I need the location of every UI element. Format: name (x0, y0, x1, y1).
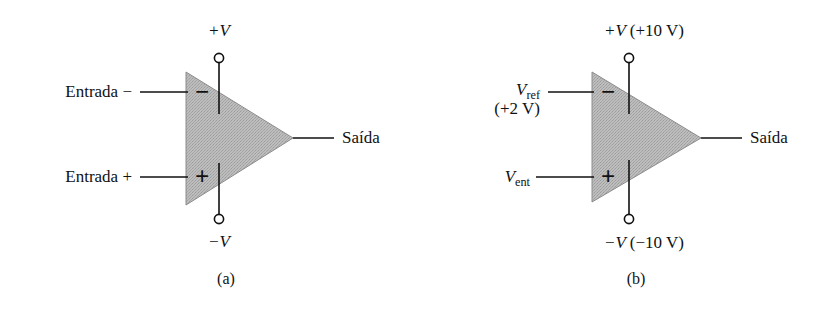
signal-input-var-b: V (505, 167, 515, 186)
positive-supply-terminal-a (214, 53, 223, 62)
reference-input-label-b: Vref (+2 V) (494, 81, 540, 119)
negative-supply-value-b: (−10 V) (630, 233, 684, 252)
output-label-b: Saída (750, 129, 788, 147)
panel-b-graphics (536, 53, 742, 223)
positive-supply-value-b: (+10 V) (630, 21, 684, 40)
output-label-a: Saída (342, 129, 380, 147)
positive-supply-label-b: +V(+10 V) (604, 22, 684, 40)
noninverting-symbol-a: + (195, 163, 209, 190)
figure-root: − + Entrada − Entrada + Saída +V −V (a) … (0, 0, 834, 311)
noninverting-symbol-b: + (601, 163, 615, 190)
positive-supply-label-a: +V (208, 22, 230, 40)
signal-input-label-b: Vent (505, 168, 530, 186)
negative-supply-label-b: −V(−10 V) (604, 234, 684, 252)
noninverting-input-label-a: Entrada + (65, 168, 132, 186)
panel-a-graphics (140, 53, 334, 223)
panel-caption-b: (b) (627, 270, 646, 287)
inverting-symbol-b: − (601, 78, 615, 105)
negative-supply-var-b: −V (604, 233, 626, 252)
reference-input-value-b: (+2 V) (494, 100, 540, 118)
negative-supply-terminal-a (214, 214, 223, 223)
negative-supply-terminal-b (624, 214, 633, 223)
negative-supply-label-a: −V (208, 233, 230, 251)
reference-input-var-b: V (516, 80, 526, 99)
positive-supply-var-b: +V (604, 21, 626, 40)
schematic-canvas (0, 0, 834, 311)
inverting-input-label-a: Entrada − (65, 83, 132, 101)
signal-input-sub-b: ent (515, 175, 530, 189)
inverting-symbol-a: − (195, 78, 209, 105)
panel-caption-a: (a) (217, 270, 235, 287)
positive-supply-terminal-b (624, 53, 633, 62)
